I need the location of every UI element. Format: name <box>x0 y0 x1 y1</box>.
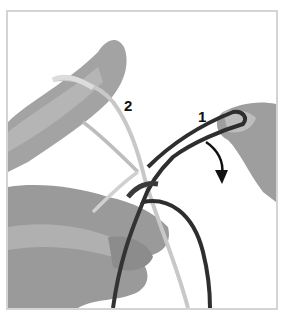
cord-label-1: 1 <box>198 109 206 124</box>
cord-label-2: 2 <box>124 98 132 113</box>
curved-down-arrow-icon <box>206 142 228 184</box>
knot-tying-photo <box>8 12 276 308</box>
photo-frame: 2 1 <box>6 10 278 310</box>
